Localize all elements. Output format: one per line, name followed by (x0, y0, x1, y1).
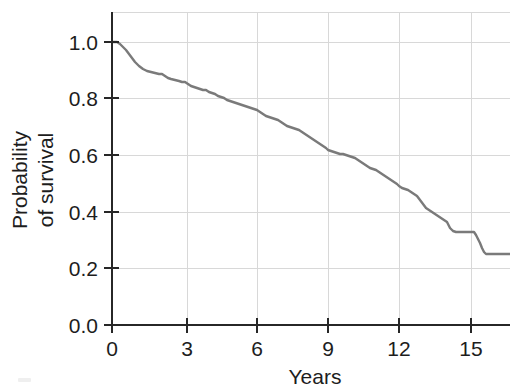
x-tick-label-9: 9 (322, 337, 334, 360)
survival-chart-figure: 1.0 0.8 0.6 0.4 0.2 0.0 0 3 6 9 12 15 Ye… (0, 0, 510, 389)
x-axis-title: Years (289, 365, 342, 388)
y-axis-title-line-1: Probability (8, 130, 31, 229)
x-tick-label-15: 15 (459, 337, 482, 360)
x-tick-label-3: 3 (181, 337, 193, 360)
kaplan-meier-plot: 1.0 0.8 0.6 0.4 0.2 0.0 0 3 6 9 12 15 Ye… (0, 0, 510, 389)
y-tick-label-0.2: 0.2 (69, 257, 98, 280)
x-tick-label-12: 12 (387, 337, 410, 360)
y-tick-label-0.4: 0.4 (69, 201, 99, 224)
x-tick-label-6: 6 (251, 337, 263, 360)
y-tick-label-1.0: 1.0 (69, 31, 98, 54)
plot-background (112, 12, 510, 325)
y-tick-label-0.6: 0.6 (69, 144, 98, 167)
x-tick-label-0: 0 (106, 337, 118, 360)
scan-artifact-speck (18, 378, 31, 382)
y-tick-label-0.8: 0.8 (69, 87, 98, 110)
y-tick-label-0.0: 0.0 (69, 314, 98, 337)
y-axis-title-line-2: of survival (34, 133, 57, 228)
